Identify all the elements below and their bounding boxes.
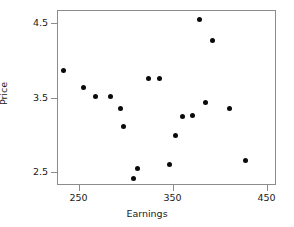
x-axis-tick-label: 450 <box>247 193 287 203</box>
data-point <box>197 17 202 22</box>
y-axis-tick-mark <box>51 23 57 24</box>
scatter-plot-figure: Price Earnings 4.53.52.5250350450 <box>0 0 294 227</box>
y-axis-tick-mark <box>51 172 57 173</box>
x-axis-tick-mark <box>173 185 174 191</box>
data-points-layer <box>58 11 275 184</box>
y-axis-tick-label: 3.5 <box>33 93 48 103</box>
y-axis-tick-label: 2.5 <box>33 167 48 177</box>
y-axis-tick-label: 4.5 <box>33 18 48 28</box>
data-point <box>227 106 232 111</box>
data-point <box>93 94 98 99</box>
plot-area-frame <box>57 10 276 185</box>
y-axis-tick-mark <box>51 98 57 99</box>
data-point <box>61 68 66 73</box>
x-axis-tick-mark <box>267 185 268 191</box>
x-axis-title: Earnings <box>0 208 294 219</box>
data-point <box>121 124 126 129</box>
data-point <box>190 113 195 118</box>
x-axis-tick-label: 250 <box>59 193 99 203</box>
data-point <box>108 94 113 99</box>
x-axis-tick-mark <box>79 185 80 191</box>
data-point <box>173 133 178 138</box>
data-point <box>180 114 185 119</box>
data-point <box>157 76 162 81</box>
data-point <box>81 85 86 90</box>
x-axis-tick-label: 350 <box>153 193 193 203</box>
data-point <box>210 38 215 43</box>
data-point <box>118 106 123 111</box>
y-axis-title: Price <box>0 82 9 105</box>
data-point <box>203 100 208 105</box>
data-point <box>167 162 172 167</box>
data-point <box>146 76 151 81</box>
data-point <box>135 166 140 171</box>
data-point <box>243 158 248 163</box>
data-point <box>131 176 136 181</box>
